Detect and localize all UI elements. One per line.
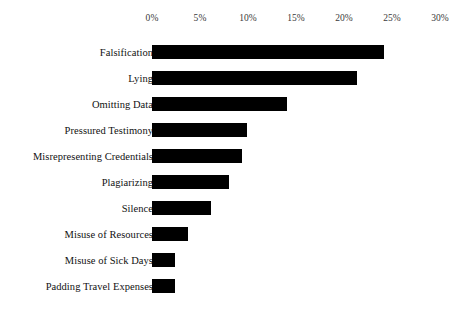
bar-row: Misuse of Sick Days xyxy=(0,247,455,273)
bar-row: Misrepresenting Credentials xyxy=(0,143,455,169)
x-axis-tick-label: 15% xyxy=(287,13,305,23)
bar xyxy=(152,201,211,215)
bar xyxy=(152,253,175,267)
bar-row: Pressured Testimony xyxy=(0,117,455,143)
x-axis: 0%5%10%15%20%25%30% xyxy=(0,0,455,34)
category-label: Misuse of Resources xyxy=(65,229,153,240)
x-axis-tick-label: 20% xyxy=(335,13,353,23)
bar-chart: 0%5%10%15%20%25%30% FalsificationLyingOm… xyxy=(0,0,455,329)
category-label: Misuse of Sick Days xyxy=(65,255,153,266)
bar xyxy=(152,175,229,189)
bar-row: Omitting Data xyxy=(0,91,455,117)
category-label: Silence xyxy=(122,203,153,214)
bar xyxy=(152,149,242,163)
bar-row: Lying xyxy=(0,65,455,91)
bar-row: Falsification xyxy=(0,39,455,65)
bar-row: Misuse of Resources xyxy=(0,221,455,247)
x-axis-tick-label: 0% xyxy=(146,13,159,23)
category-label: Misrepresenting Credentials xyxy=(33,151,153,162)
category-label: Falsification xyxy=(100,47,153,58)
bar xyxy=(152,45,384,59)
bar xyxy=(152,97,287,111)
category-label: Omitting Data xyxy=(92,99,153,110)
bar xyxy=(152,123,247,137)
x-axis-tick-label: 25% xyxy=(383,13,401,23)
bar xyxy=(152,227,188,241)
category-label: Pressured Testimony xyxy=(65,125,153,136)
bar-row: Silence xyxy=(0,195,455,221)
x-axis-tick-label: 30% xyxy=(431,13,449,23)
bar-row: Padding Travel Expenses xyxy=(0,273,455,299)
category-label: Plagiarizing xyxy=(102,177,153,188)
category-label: Lying xyxy=(128,73,153,84)
x-axis-tick-label: 5% xyxy=(194,13,207,23)
bar-row: Plagiarizing xyxy=(0,169,455,195)
bar xyxy=(152,71,357,85)
plot-area: FalsificationLyingOmitting DataPressured… xyxy=(0,34,455,329)
x-axis-tick-label: 10% xyxy=(239,13,257,23)
category-label: Padding Travel Expenses xyxy=(46,281,153,292)
bar xyxy=(152,279,175,293)
